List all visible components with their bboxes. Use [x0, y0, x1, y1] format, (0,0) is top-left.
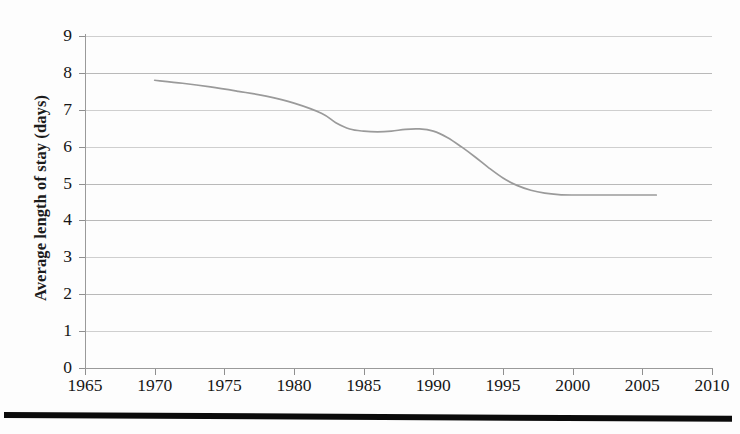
chart-figure: Average length of stay (days) 0123456789…	[0, 0, 740, 434]
data-series-line	[0, 0, 740, 434]
